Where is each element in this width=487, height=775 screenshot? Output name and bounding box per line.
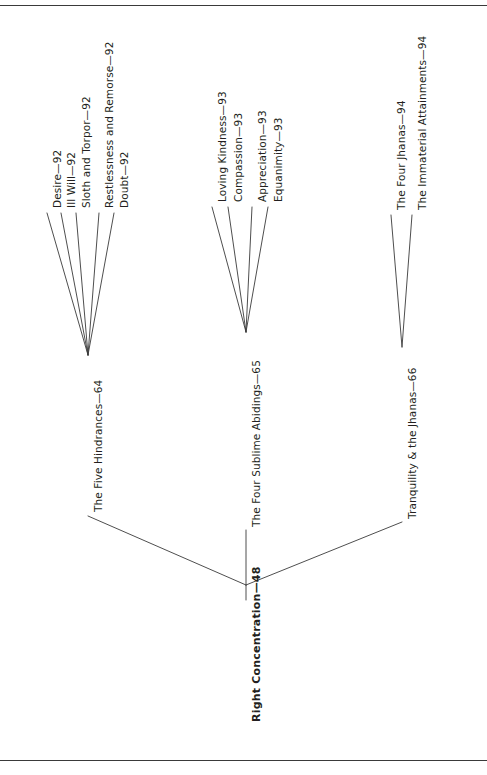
leaf-label-appreciation: Appreciation—93: [257, 110, 268, 202]
leaf-label-loving-kindness: Loving Kindness—93: [217, 91, 228, 202]
edge-leaf-loving-kindness: [212, 207, 246, 332]
branch-label-the-five-hindrances: The Five Hindrances—64: [93, 380, 104, 512]
edge-branch-five-hindrances: [88, 516, 246, 585]
edge-leaf-ill-will: [61, 213, 88, 355]
leaf-label-sloth-and-torpor: Sloth and Torpor—92: [81, 96, 92, 208]
edge-leaf-four-jhanas: [391, 215, 402, 347]
root-label-right-concentration: Right Concentration—48: [251, 566, 262, 722]
leaf-label-restlessness-and-remorse: Restlessness and Remorse—92: [104, 42, 115, 208]
edge-leaf-sloth-and-torpor: [76, 213, 88, 355]
edge-leaf-doubt: [88, 213, 114, 355]
leaf-label-desire: Desire—92: [52, 150, 63, 208]
branch-label-the-four-sublime-abidings: The Four Sublime Abidings—65: [251, 360, 262, 527]
diagram-page: Desire—92 Ill Will—92 Sloth and Torpor—9…: [0, 0, 487, 775]
page-bottom-rule: [0, 760, 487, 761]
edge-leaf-compassion: [228, 207, 246, 332]
leaf-label-the-immaterial-attainments: The Immaterial Attainments—94: [417, 36, 428, 210]
edge-leaf-restlessness: [88, 213, 99, 355]
leaf-label-the-four-jhanas: The Four Jhanas—94: [396, 100, 407, 210]
edge-leaf-equanimity: [246, 207, 268, 332]
edge-leaf-desire: [47, 213, 88, 355]
branch-label-tranquility-and-the-jhanas: Tranquility & the Jhanas—66: [407, 368, 418, 519]
leaf-label-compassion: Compassion—93: [233, 113, 244, 202]
edge-branch-tranquility: [246, 522, 402, 585]
edge-leaf-appreciation: [246, 207, 252, 332]
page-top-rule: [0, 5, 487, 6]
edge-leaf-immaterial: [402, 215, 412, 347]
leaf-label-ill-will: Ill Will—92: [66, 152, 77, 208]
leaf-label-equanimity: Equanimity—93: [273, 117, 284, 202]
leaf-label-doubt: Doubt—92: [119, 151, 130, 208]
